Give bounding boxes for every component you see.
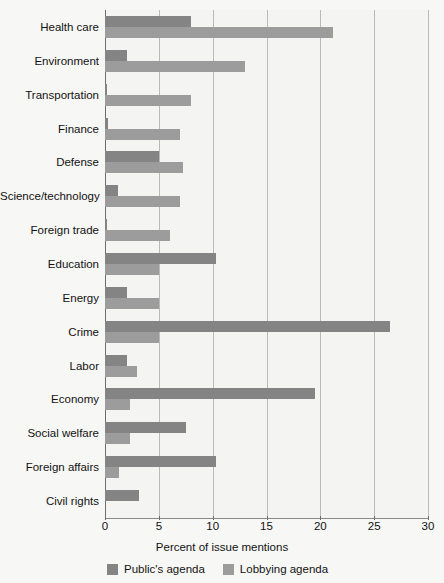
bar-public [105,287,127,298]
chart-row: Foreign affairs [0,450,444,484]
x-tick-label: 20 [314,520,327,532]
bar-public [105,253,216,264]
bar-public [105,118,108,129]
category-label: Crime [0,326,99,338]
x-axis-ticks: 051015202530 [0,520,444,536]
bar-lobbying [105,162,183,173]
chart-row: Energy [0,281,444,315]
chart-row: Social welfare [0,416,444,450]
bar-lobbying [105,196,180,207]
bar-public [105,185,118,196]
x-axis-title: Percent of issue mentions [0,541,444,553]
category-label: Transportation [0,89,99,101]
legend-item-lobbying: Lobbying agenda [223,563,328,575]
bar-lobbying [105,366,137,377]
legend-label: Lobbying agenda [240,563,328,575]
category-label: Defense [0,156,99,168]
chart-row: Education [0,247,444,281]
bar-lobbying [105,467,119,478]
x-tick-label: 0 [102,520,108,532]
bar-lobbying [105,95,191,106]
category-label: Foreign affairs [0,461,99,473]
chart-row: Crime [0,315,444,349]
category-label: Health care [0,21,99,33]
bar-public [105,219,107,230]
category-label: Education [0,258,99,270]
category-label: Foreign trade [0,224,99,236]
bar-public [105,16,191,27]
category-label: Civil rights [0,495,99,507]
x-tick-label: 30 [422,520,435,532]
legend-swatch [223,564,234,575]
chart-legend: Public's agendaLobbying agenda [107,563,328,575]
bar-public [105,151,159,162]
bar-public [105,84,107,95]
category-label: Environment [0,55,99,67]
bar-lobbying [105,433,130,444]
chart-row: Science/technology [0,179,444,213]
bar-lobbying [105,399,130,410]
bar-lobbying [105,298,159,309]
chart-row: Transportation [0,78,444,112]
x-tick-label: 25 [368,520,381,532]
chart-row: Labor [0,349,444,383]
chart-row: Finance [0,112,444,146]
chart-row: Environment [0,44,444,78]
bar-lobbying [105,332,159,343]
chart-rows: Health careEnvironmentTransportationFina… [0,10,444,518]
chart-row: Economy [0,383,444,417]
chart-row: Health care [0,10,444,44]
bar-public [105,456,216,467]
category-label: Finance [0,123,99,135]
category-label: Energy [0,292,99,304]
category-label: Science/technology [0,190,99,202]
bar-lobbying [105,61,245,72]
chart-row: Foreign trade [0,213,444,247]
bar-public [105,50,127,61]
bar-public [105,355,127,366]
bar-lobbying [105,264,159,275]
x-tick-label: 15 [260,520,273,532]
chart-row: Civil rights [0,484,444,518]
bar-public [105,388,315,399]
bar-public [105,422,186,433]
bar-public [105,321,390,332]
bar-lobbying [105,129,180,140]
bar-public [105,490,139,501]
x-tick-label: 5 [156,520,162,532]
x-tick-label: 10 [206,520,219,532]
bar-lobbying [105,230,170,241]
legend-swatch [107,564,118,575]
bar-lobbying [105,27,333,38]
category-label: Economy [0,393,99,405]
category-label: Labor [0,360,99,372]
legend-label: Public's agenda [124,563,205,575]
bar-chart: Health careEnvironmentTransportationFina… [0,0,444,583]
category-label: Social welfare [0,427,99,439]
chart-row: Defense [0,145,444,179]
legend-item-public: Public's agenda [107,563,205,575]
